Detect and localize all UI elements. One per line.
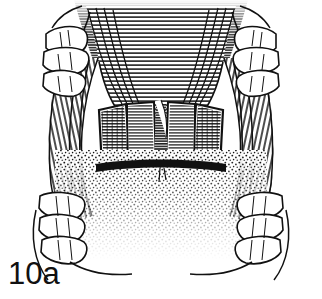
left-posterior-molars xyxy=(43,27,89,97)
figure-panel: 10a xyxy=(0,0,322,299)
figure-caption: 10a xyxy=(8,258,60,289)
right-anterior-teeth xyxy=(235,192,283,263)
right-posterior-molars xyxy=(233,27,279,97)
left-anterior-teeth xyxy=(39,192,87,263)
surgical-illustration xyxy=(0,0,322,299)
